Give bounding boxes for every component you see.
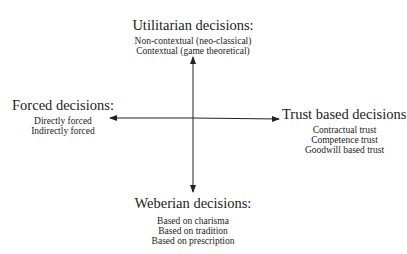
right-quadrant-label: Trust based decisions: Contractual trust…: [282, 106, 407, 155]
top-quadrant-label: Utilitarian decisions: Non-contextual (n…: [113, 17, 273, 56]
left-item: Indirectly forced: [8, 126, 118, 136]
bottom-quadrant-label: Weberian decisions: Based on charisma Ba…: [128, 195, 258, 246]
right-item: Goodwill based trust: [282, 145, 407, 155]
right-item: Contractual trust: [282, 125, 407, 135]
horizontal-axis-right-arrow: [193, 118, 279, 119]
top-item: Non-contextual (neo-classical): [113, 36, 273, 46]
bottom-title: Weberian decisions:: [128, 195, 258, 211]
bottom-item: Based on tradition: [128, 226, 258, 236]
bottom-item: Based on charisma: [128, 216, 258, 226]
right-title: Trust based decisions:: [282, 106, 407, 122]
left-title: Forced decisions:: [8, 97, 118, 113]
right-item: Competence trust: [282, 135, 407, 145]
left-item: Directly forced: [8, 116, 118, 126]
bottom-item: Based on prescription: [128, 236, 258, 246]
top-title: Utilitarian decisions:: [113, 17, 273, 33]
left-quadrant-label: Forced decisions: Directly forced Indire…: [8, 97, 118, 136]
top-item: Contextual (game theoretical): [113, 46, 273, 56]
